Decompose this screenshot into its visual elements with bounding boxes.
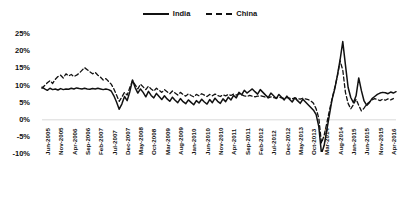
series-line-india — [42, 42, 396, 154]
line-chart: India China -10%-5%0%5%10%15%20%25% Jun-… — [0, 0, 400, 208]
plot-area — [0, 0, 400, 208]
